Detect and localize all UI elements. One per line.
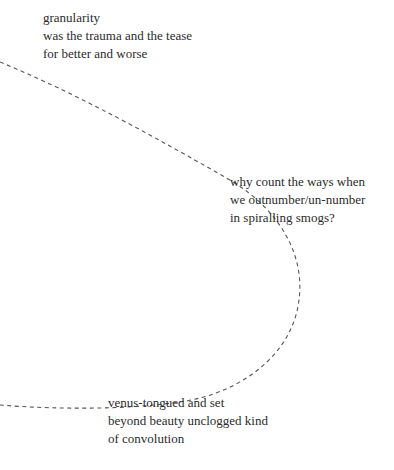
stanza-1: granularity was the trauma and the tease…: [43, 9, 192, 63]
stanza-1-line-1: granularity: [43, 9, 192, 27]
stanza-2-line-3: in spiralling smogs?: [230, 209, 365, 227]
stanza-2-line-1: why count the ways when: [230, 173, 365, 191]
stanza-1-line-3: for better and worse: [43, 45, 192, 63]
stanza-3-line-1: venus-tongued and set: [108, 394, 268, 412]
stanza-3-line-3: of convolution: [108, 430, 268, 448]
stanza-1-line-2: was the trauma and the tease: [43, 27, 192, 45]
stanza-2-line-2: we outnumber/un-number: [230, 191, 365, 209]
stanza-3: venus-tongued and set beyond beauty uncl…: [108, 394, 268, 448]
stanza-3-line-2: beyond beauty unclogged kind: [108, 412, 268, 430]
stanza-2: why count the ways when we outnumber/un-…: [230, 173, 365, 227]
